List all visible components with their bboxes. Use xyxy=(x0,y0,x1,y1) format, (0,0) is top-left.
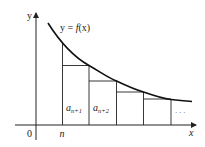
curve-label: y = f(x) xyxy=(60,22,90,34)
n-tick-label: n xyxy=(60,128,65,139)
y-axis-label: y xyxy=(27,10,32,21)
diagram-canvas: y x 0 n y = f(x) an+1 an+2 · · · xyxy=(0,0,205,147)
origin-label: 0 xyxy=(27,128,32,139)
rect-label-a-n-plus-1: an+1 xyxy=(66,102,82,114)
rect-label-a-n-plus-2: an+2 xyxy=(93,102,110,114)
curve-f xyxy=(48,23,192,102)
ellipsis: · · · xyxy=(175,109,186,117)
x-axis-label: x xyxy=(188,127,194,138)
